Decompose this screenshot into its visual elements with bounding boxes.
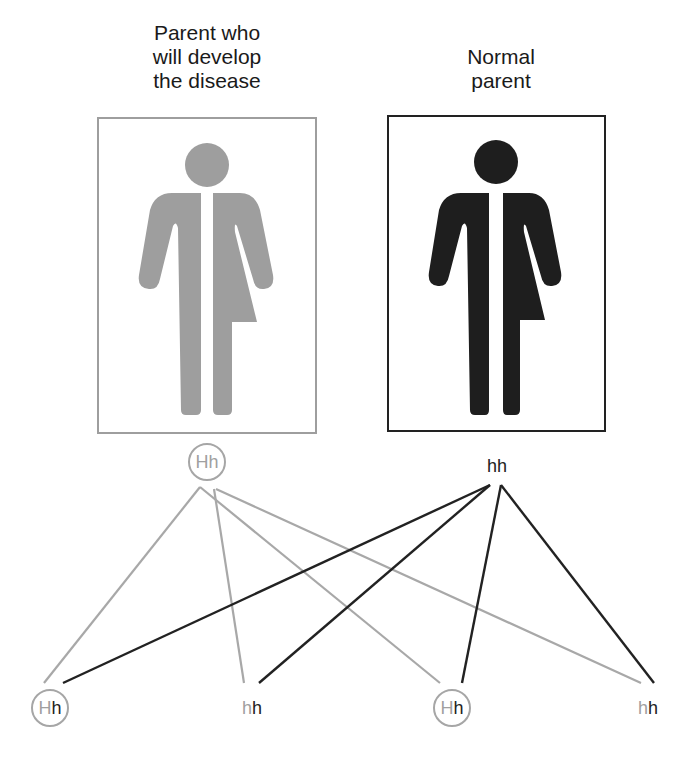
allele: h: [208, 452, 218, 473]
allele: H: [195, 452, 208, 473]
child-3-genotype: Hh: [433, 689, 471, 727]
line-affected-to-child-4: [216, 489, 641, 683]
allele: h: [497, 456, 507, 476]
child-2-genotype: hh: [232, 698, 272, 718]
allele-from-affected: h: [638, 698, 648, 718]
allele-from-normal: h: [252, 698, 262, 718]
allele-from-normal: h: [648, 698, 658, 718]
allele-from-normal: h: [51, 698, 61, 719]
affected-parent-genotype: Hh: [188, 443, 226, 481]
child-1-genotype: Hh: [31, 689, 69, 727]
child-4-genotype: hh: [628, 698, 668, 718]
line-normal-to-child-3: [462, 485, 501, 683]
line-affected-to-child-3: [200, 487, 440, 683]
normal-parent-genotype: hh: [477, 456, 517, 476]
line-affected-to-child-1: [44, 487, 200, 683]
allele-from-affected: H: [440, 698, 453, 719]
allele-from-normal: h: [453, 698, 463, 719]
allele: h: [487, 456, 497, 476]
allele-from-affected: h: [242, 698, 252, 718]
line-normal-to-child-2: [259, 485, 490, 683]
allele-from-affected: H: [38, 698, 51, 719]
inheritance-lines: [0, 0, 694, 768]
